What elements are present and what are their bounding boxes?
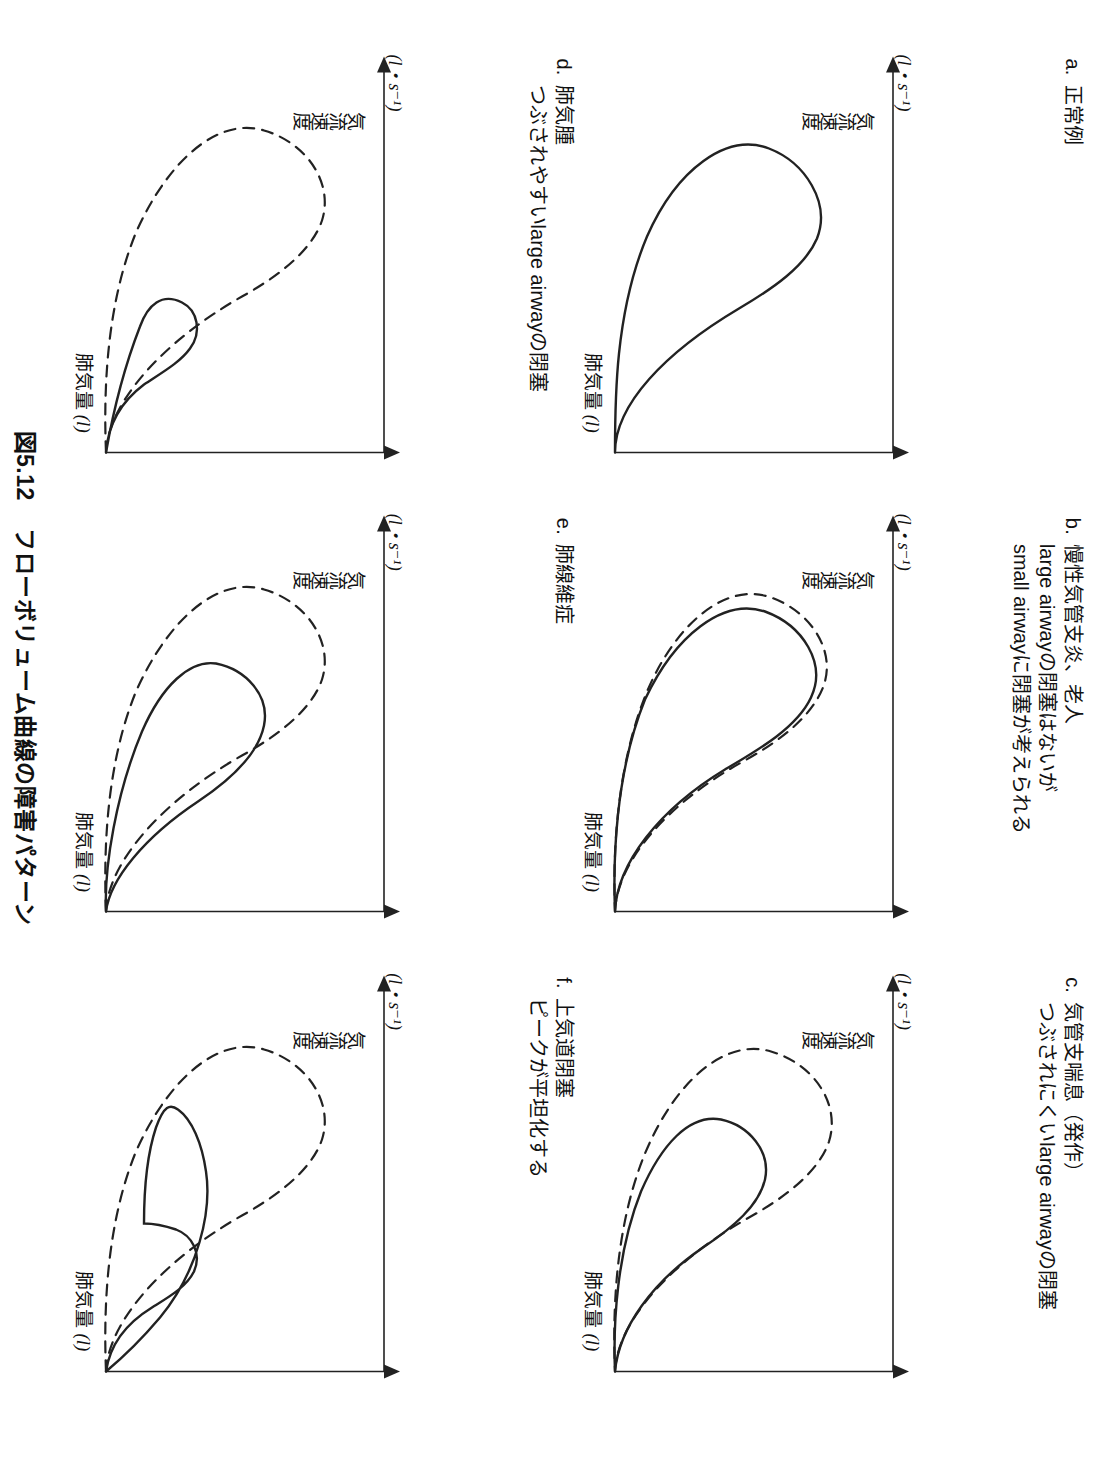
panel-c-y-label: 気流速度 — [803, 1025, 875, 1052]
panel-f-letter: f. — [551, 977, 577, 989]
panel-c-letter: c. — [1060, 977, 1086, 993]
figure-caption-text: フローボリューム曲線の障害パターン — [12, 528, 38, 926]
panel-e-x-label: 肺気量 (l) — [72, 811, 99, 891]
panel-c-x-label: 肺気量 (l) — [581, 1271, 608, 1351]
panel-b-title: 慢性気管支炎、老人 large airwayの閉塞はないが small airw… — [1008, 543, 1086, 833]
panel-c-title: 気管支喘息（発作） つぶされにくいlarge airwayの閉塞 — [1034, 1002, 1086, 1310]
panel-d-header: d. 肺気腫 つぶされやすいlarge airwayの閉塞 — [525, 58, 577, 392]
panel-a: a. 正常例 (l・s⁻¹) 気流速度 肺気量 (l) — [585, 52, 1086, 493]
panel-d-y-unit: (l・s⁻¹) — [384, 54, 410, 111]
panel-e-header: e. 肺線維症 — [551, 517, 577, 623]
panel-d-letter: d. — [551, 58, 577, 75]
panel-f-title: 上気道閉塞 ピークが平坦化する — [525, 997, 577, 1177]
panel-b-x-label: 肺気量 (l) — [581, 811, 608, 891]
figure-caption-number: 図5.12 — [12, 430, 38, 500]
panel-e: e. 肺線維症 (l・s⁻¹) 気流速度 肺気量 (l) — [76, 511, 577, 952]
panel-d: d. 肺気腫 つぶされやすいlarge airwayの閉塞 (l・s⁻¹) 気流… — [76, 52, 577, 493]
panel-d-title: 肺気腫 つぶされやすいlarge airwayの閉塞 — [525, 84, 577, 392]
panel-a-y-unit: (l・s⁻¹) — [893, 54, 919, 111]
panel-c: c. 気管支喘息（発作） つぶされにくいlarge airwayの閉塞 (l・s… — [585, 971, 1086, 1412]
panel-e-y-label: 気流速度 — [294, 565, 366, 592]
panel-e-plot: (l・s⁻¹) 気流速度 肺気量 (l) — [76, 511, 406, 952]
panel-f-y-unit: (l・s⁻¹) — [384, 973, 410, 1030]
panel-b-y-unit: (l・s⁻¹) — [893, 513, 919, 570]
panel-a-x-label: 肺気量 (l) — [581, 352, 608, 432]
panel-c-y-unit: (l・s⁻¹) — [893, 973, 919, 1030]
panel-b-header: b. 慢性気管支炎、老人 large airwayの閉塞はないが small a… — [1008, 517, 1086, 833]
panel-a-header: a. 正常例 — [1060, 58, 1086, 144]
panel-d-plot: (l・s⁻¹) 気流速度 肺気量 (l) — [76, 52, 406, 493]
panel-a-plot: (l・s⁻¹) 気流速度 肺気量 (l) — [585, 52, 915, 493]
panel-f-plot: (l・s⁻¹) 気流速度 肺気量 (l) — [76, 971, 406, 1412]
rotated-scan-canvas: a. 正常例 (l・s⁻¹) 気流速度 肺気量 (l) — [0, 0, 1120, 1459]
panel-e-y-unit: (l・s⁻¹) — [384, 513, 410, 570]
panel-e-letter: e. — [551, 517, 577, 534]
panel-a-letter: a. — [1060, 58, 1086, 75]
panel-b: b. 慢性気管支炎、老人 large airwayの閉塞はないが small a… — [585, 511, 1086, 952]
panel-f-y-label: 気流速度 — [294, 1025, 366, 1052]
figure-page: a. 正常例 (l・s⁻¹) 気流速度 肺気量 (l) — [0, 0, 1120, 1459]
panel-d-y-label: 気流速度 — [294, 106, 366, 133]
panel-a-title: 正常例 — [1060, 84, 1086, 144]
panel-grid: a. 正常例 (l・s⁻¹) 気流速度 肺気量 (l) — [76, 52, 1086, 1412]
panel-e-title: 肺線維症 — [551, 543, 577, 623]
panel-b-letter: b. — [1060, 517, 1086, 534]
panel-f-header: f. 上気道閉塞 ピークが平坦化する — [525, 977, 577, 1178]
panel-d-x-label: 肺気量 (l) — [72, 352, 99, 432]
panel-c-plot: (l・s⁻¹) 気流速度 肺気量 (l) — [585, 971, 915, 1412]
panel-b-y-label: 気流速度 — [803, 565, 875, 592]
panel-f-x-label: 肺気量 (l) — [72, 1271, 99, 1351]
figure-caption: 図5.12 フローボリューム曲線の障害パターン — [10, 430, 44, 925]
panel-b-plot: (l・s⁻¹) 気流速度 肺気量 (l) — [585, 511, 915, 952]
panel-a-y-label: 気流速度 — [803, 106, 875, 133]
panel-f: f. 上気道閉塞 ピークが平坦化する (l・s⁻¹) 気流速度 肺気量 (l) — [76, 971, 577, 1412]
panel-c-header: c. 気管支喘息（発作） つぶされにくいlarge airwayの閉塞 — [1034, 977, 1086, 1310]
